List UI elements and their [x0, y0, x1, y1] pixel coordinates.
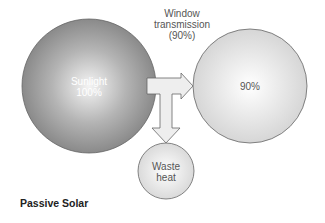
transmitted-label-line1: 90%	[220, 81, 280, 92]
diagram-title: Passive Solar	[20, 197, 88, 209]
edge-label-line1: Window	[150, 8, 214, 19]
edge-label-line3: (90%)	[150, 30, 214, 41]
split-arrow	[147, 73, 193, 143]
edge-label-window-transmission: Window transmission (90%)	[150, 8, 214, 41]
waste-heat-label: Waste heat	[136, 161, 196, 183]
sunlight-label-line1: Sunlight	[59, 76, 119, 87]
sunlight-label: Sunlight 100%	[59, 76, 119, 98]
transmitted-label: 90%	[220, 81, 280, 92]
edge-label-line2: transmission	[150, 19, 214, 30]
waste-heat-label-line2: heat	[136, 172, 196, 183]
sunlight-label-line2: 100%	[59, 87, 119, 98]
waste-heat-label-line1: Waste	[136, 161, 196, 172]
